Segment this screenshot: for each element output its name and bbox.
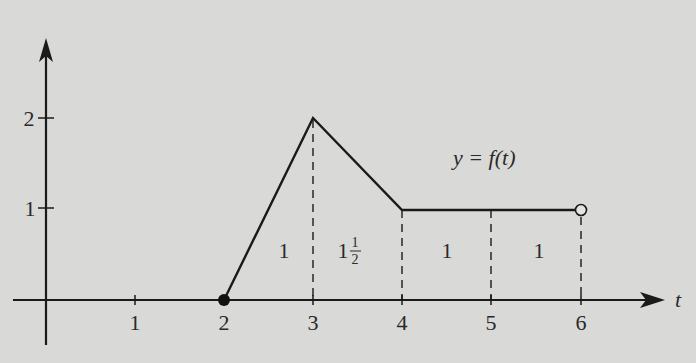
y-tick-label: 1 [25,196,36,221]
svg-text:1: 1 [338,238,349,263]
x-tick-label: 3 [308,310,319,335]
x-tick-label: 1 [130,310,141,335]
x-tick-label: 2 [219,310,230,335]
function-label: y = f(t) [451,145,516,170]
area-label: 1 [442,238,453,263]
x-axis-label: t [675,287,682,312]
axes [13,50,655,345]
x-tick-label: 4 [397,310,408,335]
open-endpoint [576,205,587,216]
function-curve [224,118,576,300]
y-tick-label: 2 [24,106,35,131]
svg-text:2: 2 [352,252,359,267]
area-label-mixed-fraction: 1 1 2 [338,235,362,267]
x-tick-label: 5 [486,310,497,335]
area-label: 1 [534,238,545,263]
chart: 1 2 3 4 5 6 1 2 t y = f(t) 1 1 1 2 1 1 [0,0,696,363]
x-tick-label: 6 [576,310,587,335]
closed-endpoint [218,294,230,306]
svg-text:1: 1 [352,235,359,250]
area-label: 1 [279,238,290,263]
